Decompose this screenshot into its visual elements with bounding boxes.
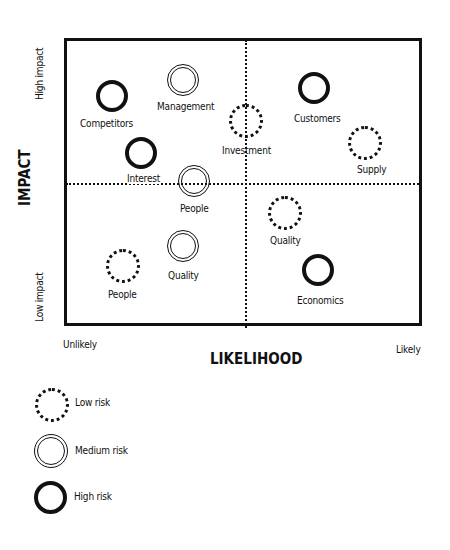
legend-high: High risk <box>74 491 112 502</box>
x-low-label: Unlikely <box>63 339 97 350</box>
point-label: Supply <box>357 164 386 175</box>
medium-risk-icon <box>34 434 68 468</box>
medium-risk-icon <box>167 230 199 262</box>
point-label: Economics <box>297 295 343 306</box>
high-risk-icon <box>96 80 128 112</box>
y-high-label: High impact <box>34 48 45 100</box>
point-label: People <box>180 203 209 214</box>
legend-medium: Medium risk <box>75 445 128 456</box>
point-label: Customers <box>294 113 341 124</box>
high-risk-icon <box>302 254 334 286</box>
point-label: Interest <box>127 173 160 184</box>
point-label: Quality <box>168 270 199 281</box>
low-risk-icon <box>348 126 382 160</box>
y-axis-title: IMPACT <box>16 149 34 206</box>
x-high-label: Likely <box>396 344 421 355</box>
point-label: Management <box>157 101 214 112</box>
point-label: Quality <box>270 235 301 246</box>
high-risk-icon <box>34 481 67 514</box>
legend-low: Low risk <box>75 397 110 408</box>
medium-risk-icon <box>167 64 199 96</box>
high-risk-icon <box>298 72 330 104</box>
low-risk-icon <box>268 196 302 230</box>
point-label: People <box>108 289 137 300</box>
low-risk-icon <box>229 104 263 138</box>
high-risk-icon <box>125 137 157 169</box>
point-label: Competitors <box>80 118 133 129</box>
point-label: Investment <box>222 145 271 156</box>
medium-risk-icon <box>178 165 210 197</box>
x-axis-title: LIKELIHOOD <box>210 350 302 368</box>
low-risk-icon <box>35 388 69 422</box>
horizontal-divider <box>66 183 422 185</box>
y-low-label: Low impact <box>34 272 45 322</box>
low-risk-icon <box>106 249 140 283</box>
